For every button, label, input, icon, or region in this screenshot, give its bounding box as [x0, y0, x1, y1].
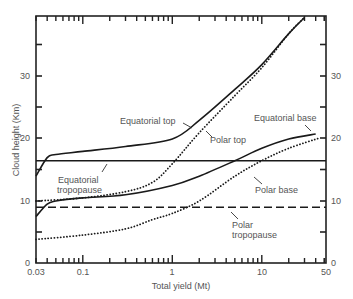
x-tick-0.1: 0.1 — [77, 267, 90, 277]
label-equatorial-tropopause-1: Equatorial — [58, 175, 99, 185]
label-polar-tropopause-1: Polar — [232, 220, 253, 230]
y-right-tick-20: 20 — [331, 133, 341, 143]
x-tick-10: 10 — [257, 267, 267, 277]
x-axis-title: Total yield (Mt) — [152, 281, 211, 291]
arrow-polar-base — [254, 177, 262, 184]
series-group — [36, 17, 326, 239]
x-ticks — [36, 16, 324, 263]
cloud-height-chart: 0 10 20 30 0 10 20 30 0.03 0.1 1 10 50 T… — [0, 0, 353, 299]
label-polar-tropopause-2: tropopause — [232, 230, 277, 240]
series-polar-top — [36, 17, 305, 201]
label-equatorial-base: Equatorial base — [254, 113, 317, 123]
y-tick-20: 20 — [20, 133, 30, 143]
x-tick-0.03: 0.03 — [27, 267, 45, 277]
label-polar-base: Polar base — [255, 185, 298, 195]
y-axis-title: Cloud height (Km) — [11, 104, 21, 177]
series-equatorial-top — [36, 17, 305, 176]
label-equatorial-top: Equatorial top — [120, 116, 176, 126]
y-tick-10: 10 — [20, 196, 30, 206]
arrow-polar-tropopause — [231, 212, 238, 219]
arrow-equatorial-top — [183, 123, 192, 128]
plot-frame — [36, 16, 326, 263]
y-ticks-left — [36, 45, 42, 233]
arrow-equatorial-tropopause — [102, 164, 107, 172]
label-equatorial-tropopause-2: tropopause — [57, 185, 102, 195]
y-tick-30: 30 — [20, 71, 30, 81]
y-right-tick-10: 10 — [331, 196, 341, 206]
x-tick-50: 50 — [321, 267, 331, 277]
y-right-tick-0: 0 — [331, 258, 336, 268]
arrow-polar-top — [206, 131, 212, 137]
label-polar-top: Polar top — [210, 135, 246, 145]
y-ticks-right — [320, 45, 326, 233]
arrow-equatorial-base — [305, 125, 311, 131]
x-tick-1: 1 — [169, 267, 174, 277]
y-right-tick-30: 30 — [331, 71, 341, 81]
